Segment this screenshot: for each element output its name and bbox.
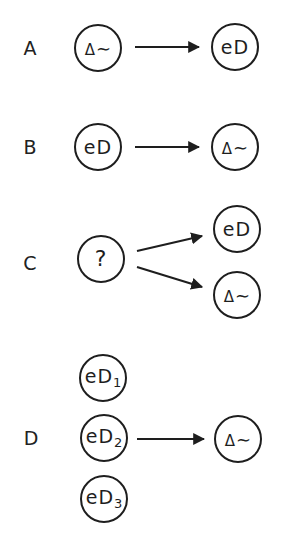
subscript: 3 — [114, 496, 122, 511]
node-text: Δ∼ — [224, 286, 250, 305]
row-label-b: B — [23, 138, 36, 157]
row-label-d: D — [24, 429, 39, 448]
node-text: eD1 — [85, 367, 122, 389]
subscript: 1 — [113, 375, 121, 390]
arrow-c-lower — [137, 267, 202, 287]
row-label-c: C — [23, 254, 36, 273]
node-text: Δ∼ — [225, 430, 251, 449]
wave-icon: ∼ — [236, 429, 251, 450]
node-text: eD — [221, 38, 249, 57]
node-text: eD — [223, 220, 251, 239]
wave-icon: ∼ — [235, 285, 250, 306]
node-ed: eD — [211, 23, 259, 71]
node-text: Δ∼ — [222, 138, 248, 157]
subscript: 2 — [114, 435, 122, 450]
node-text: Δ∼ — [85, 39, 111, 58]
node-ed-2: eD2 — [80, 414, 128, 462]
arrows-layer — [0, 0, 292, 543]
node-unknown: ? — [77, 235, 125, 283]
node-ed: eD — [74, 123, 122, 171]
node-ed: eD — [213, 205, 261, 253]
node-delta-wave: Δ∼ — [214, 415, 262, 463]
delta-icon: Δ — [222, 140, 233, 158]
wave-icon: ∼ — [96, 38, 111, 59]
wave-icon: ∼ — [233, 137, 248, 158]
node-ed-1: eD1 — [79, 354, 127, 402]
question-mark-icon: ? — [95, 248, 108, 270]
row-label-a: A — [24, 39, 37, 58]
node-text: eD3 — [86, 488, 123, 510]
delta-icon: Δ — [224, 288, 235, 306]
delta-icon: Δ — [225, 432, 236, 450]
node-text: eD2 — [86, 427, 123, 449]
node-ed-3: eD3 — [80, 475, 128, 523]
delta-icon: Δ — [85, 41, 96, 59]
node-delta-wave: Δ∼ — [213, 271, 261, 319]
node-delta-wave: Δ∼ — [74, 24, 122, 72]
node-text: eD — [84, 138, 112, 157]
arrow-c-upper — [137, 236, 202, 251]
node-delta-wave: Δ∼ — [211, 123, 259, 171]
